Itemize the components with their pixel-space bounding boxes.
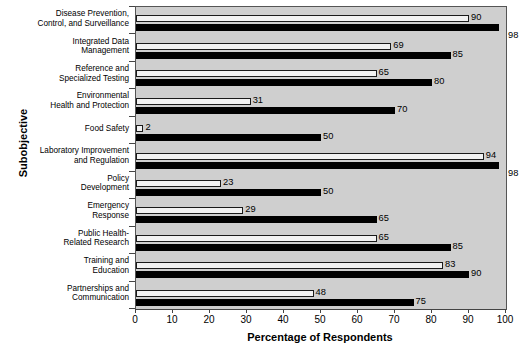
category-label: Public Health-Related Research [16, 229, 129, 248]
y-axis-tick [129, 88, 135, 89]
x-axis-tick-label: 20 [194, 314, 224, 325]
y-axis-tick [129, 33, 135, 34]
bar-group [136, 34, 506, 61]
bar-group [136, 117, 506, 144]
bar-value-label: 65 [379, 68, 389, 77]
bar-series-b [136, 107, 395, 114]
x-axis-tick [283, 309, 284, 313]
bar-value-label: 48 [316, 288, 326, 297]
bar-value-label: 31 [253, 96, 263, 105]
bar-value-label: 85 [453, 242, 463, 251]
bar-series-a [136, 153, 484, 160]
bar-group [136, 172, 506, 199]
bar-series-b [136, 162, 499, 169]
x-axis-tick [505, 309, 506, 313]
category-label: Training andEducation [16, 256, 129, 275]
category-label: EmergencyResponse [16, 201, 129, 220]
bar-series-a [136, 125, 143, 132]
bar-series-a [136, 70, 377, 77]
category-label: PolicyDevelopment [16, 174, 129, 193]
x-axis-title: Percentage of Respondents [135, 331, 505, 343]
y-axis-tick [129, 226, 135, 227]
bar-value-label: 50 [323, 187, 333, 196]
bar-value-label: 70 [397, 105, 407, 114]
x-axis-tick-label: 40 [268, 314, 298, 325]
y-axis-tick [129, 61, 135, 62]
x-axis-tick [431, 309, 432, 313]
x-axis-tick [320, 309, 321, 313]
category-label: Partnerships andCommunication [16, 284, 129, 303]
bar-chart: Subobjective Disease Prevention,Control,… [0, 0, 522, 358]
bar-value-label: 98 [508, 31, 518, 40]
bar-series-b [136, 299, 414, 306]
bar-value-label: 2 [145, 123, 150, 132]
bar-series-b [136, 24, 499, 31]
bar-group [136, 7, 506, 34]
bar-value-label: 23 [223, 178, 233, 187]
bar-value-label: 65 [379, 214, 389, 223]
bar-group [136, 144, 506, 171]
x-axis-tick [209, 309, 210, 313]
x-axis-tick [135, 309, 136, 313]
x-axis-tick-label: 10 [157, 314, 187, 325]
x-axis-tick-label: 80 [416, 314, 446, 325]
bar-value-label: 90 [471, 13, 481, 22]
category-label: Integrated DataManagement [16, 37, 129, 56]
x-axis-tick [394, 309, 395, 313]
x-axis-tick-label: 50 [305, 314, 335, 325]
y-axis-tick [129, 171, 135, 172]
y-axis-tick [129, 198, 135, 199]
x-axis-tick-label: 90 [453, 314, 483, 325]
bar-series-a [136, 207, 243, 214]
x-axis-tick [357, 309, 358, 313]
category-label: Disease Prevention,Control, and Surveill… [16, 9, 129, 28]
y-axis-tick [129, 116, 135, 117]
bar-value-label: 69 [393, 41, 403, 50]
bar-group [136, 199, 506, 226]
bar-value-label: 75 [416, 297, 426, 306]
bar-group [136, 62, 506, 89]
y-axis-tick [129, 143, 135, 144]
category-label: EnvironmentalHealth and Protection [16, 91, 129, 110]
category-label: Reference andSpecialized Testing [16, 64, 129, 83]
bar-group [136, 89, 506, 116]
bar-value-label: 94 [486, 151, 496, 160]
bar-series-a [136, 235, 377, 242]
y-axis-tick [129, 6, 135, 7]
bar-value-label: 90 [471, 269, 481, 278]
bar-series-b [136, 189, 321, 196]
bar-series-b [136, 216, 377, 223]
y-axis-tick [129, 253, 135, 254]
bar-series-a [136, 180, 221, 187]
x-axis-tick [172, 309, 173, 313]
bar-series-a [136, 290, 314, 297]
bar-value-label: 83 [445, 260, 455, 269]
category-label: Laboratory Improvementand Regulation [16, 146, 129, 165]
bar-value-label: 50 [323, 132, 333, 141]
bar-value-label: 80 [434, 77, 444, 86]
x-axis-tick-label: 60 [342, 314, 372, 325]
category-label: Food Safety [16, 124, 129, 134]
x-axis-tick-label: 30 [231, 314, 261, 325]
y-axis-tick [129, 281, 135, 282]
bar-series-a [136, 15, 469, 22]
bar-series-b [136, 244, 451, 251]
bar-series-b [136, 271, 469, 278]
bar-series-b [136, 134, 321, 141]
x-axis-tick-label: 70 [379, 314, 409, 325]
bar-group [136, 227, 506, 254]
bar-series-a [136, 262, 443, 269]
bar-series-b [136, 79, 432, 86]
x-axis-tick-label: 0 [120, 314, 150, 325]
bar-value-label: 85 [453, 50, 463, 59]
bar-value-label: 98 [508, 169, 518, 178]
bar-value-label: 65 [379, 233, 389, 242]
x-axis-tick [246, 309, 247, 313]
bar-series-a [136, 98, 251, 105]
bar-series-b [136, 52, 451, 59]
x-axis-tick [468, 309, 469, 313]
bar-value-label: 29 [245, 205, 255, 214]
category-axis-labels: Disease Prevention,Control, and Surveill… [16, 6, 129, 308]
bar-series-a [136, 43, 391, 50]
x-axis-tick-label: 100 [490, 314, 520, 325]
